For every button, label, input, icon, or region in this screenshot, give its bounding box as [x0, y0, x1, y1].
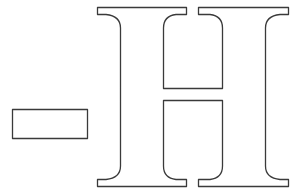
dash-glyph — [13, 110, 88, 139]
glyph-canvas — [0, 0, 305, 196]
h-left-half-outline — [98, 8, 289, 187]
